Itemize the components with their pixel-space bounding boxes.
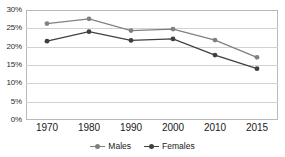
y-axis-tick-label: 30% [7, 6, 22, 14]
data-point-females [213, 53, 218, 58]
data-point-females [87, 29, 92, 34]
legend-item-females[interactable]: Females [144, 142, 195, 151]
x-axis-tick-label: 1980 [78, 122, 100, 134]
x-axis: 197019801990200020102015 [26, 122, 278, 136]
data-point-males [171, 27, 176, 32]
legend-label: Females [162, 142, 195, 151]
chart-legend: MalesFemales [0, 139, 285, 153]
data-point-females [129, 38, 134, 43]
data-point-females [255, 66, 260, 71]
gridline [26, 120, 278, 121]
y-axis-tick-label: 20% [7, 43, 22, 51]
y-axis-tick-label: 0% [11, 116, 22, 124]
data-point-females [45, 39, 50, 44]
x-axis-tick-label: 2000 [162, 122, 184, 134]
legend-marker-icon [90, 143, 105, 150]
y-axis-tick-label: 25% [7, 24, 22, 32]
x-axis-tick-label: 1990 [120, 122, 142, 134]
line-chart: 0%5%10%15%20%25%30% 19701980199020002010… [0, 0, 285, 157]
plot-wrapper [26, 10, 278, 120]
legend-marker-icon [144, 143, 159, 150]
legend-label: Males [108, 142, 131, 151]
data-point-males [213, 38, 218, 43]
x-axis-tick-label: 1970 [36, 122, 58, 134]
series-line-females [47, 32, 257, 69]
x-axis-tick-label: 2015 [246, 122, 268, 134]
y-axis: 0%5%10%15%20%25%30% [0, 10, 24, 120]
data-point-males [129, 28, 134, 33]
data-point-males [255, 55, 260, 60]
series-line-males [47, 19, 257, 58]
x-axis-tick-label: 2010 [204, 122, 226, 134]
legend-item-males[interactable]: Males [90, 142, 131, 151]
data-point-females [171, 37, 176, 42]
data-point-males [87, 16, 92, 21]
chart-title [0, 0, 285, 7]
data-point-males [45, 21, 50, 26]
y-axis-tick-label: 5% [11, 98, 22, 106]
y-axis-tick-label: 15% [7, 61, 22, 69]
series-layer [26, 10, 278, 120]
y-axis-tick-label: 10% [7, 79, 22, 87]
